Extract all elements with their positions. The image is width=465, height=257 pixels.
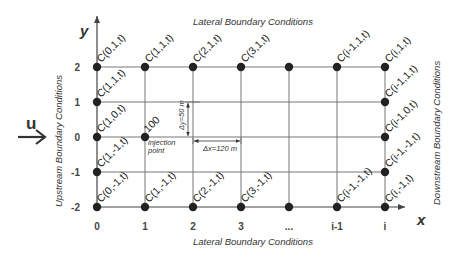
- node-label: C(i-1,1,t): [334, 27, 371, 64]
- node-labels: C(0,1,t)C(1,1,t)C(2,1,t)C(3,1,t)C(i-1,1,…: [94, 27, 422, 204]
- injection-label-line2: point: [147, 146, 165, 155]
- y-tick-label: 1: [74, 97, 80, 108]
- x-tick-label: ...: [285, 221, 294, 232]
- x-tick-labels: 0123...i-1i: [94, 221, 386, 232]
- node-label: C(2,1,t): [190, 31, 223, 64]
- x-tick-label: 0: [94, 221, 100, 232]
- left-boundary-label: Upstream Boundary Conditions: [53, 75, 64, 207]
- node-label: C(i,-1,t): [382, 171, 415, 204]
- node-label: C(3,1,t): [238, 31, 271, 64]
- right-boundary-label: Downstream Boundary Conditions: [431, 61, 442, 205]
- y-tick-label: 2: [74, 62, 80, 73]
- y-tick-labels: 210-1-2: [71, 62, 80, 213]
- node-label: C(2,-1,t): [190, 169, 226, 205]
- y-tick-label: -1: [71, 167, 80, 178]
- x-tick-label: i: [384, 221, 387, 232]
- flow-velocity-label: u: [26, 114, 36, 133]
- bottom-boundary-label: Lateral Boundary Conditions: [193, 236, 313, 247]
- node-label: C(1,0,t): [94, 101, 127, 134]
- dy-label: Δy=50 m: [177, 100, 186, 131]
- dx-label: Δx=120 m: [202, 144, 237, 153]
- node-label: C(0,1,t): [94, 31, 127, 64]
- node-label: C(i-1,-1,t): [334, 165, 374, 205]
- grid-lines: [97, 67, 385, 207]
- grid-diagram: y x 0123...i-1i 210-1-2 C(0,1,t)C(1,1,t)…: [0, 0, 465, 257]
- x-tick-label: 3: [238, 221, 244, 232]
- injection-value: 100: [141, 113, 162, 134]
- x-axis-label: x: [416, 211, 426, 228]
- y-tick-label: -2: [71, 202, 80, 213]
- node-label: C(3,-1,t): [238, 169, 274, 205]
- x-tick-label: i-1: [331, 221, 343, 232]
- node-label: C(i,1,t): [382, 34, 413, 65]
- node-label: C(1,-1,t): [142, 169, 178, 205]
- x-tick-label: 1: [142, 221, 148, 232]
- node-label: C(1,1,t): [94, 66, 127, 99]
- node-label: C(1,1,t): [142, 31, 175, 64]
- x-tick-label: 2: [190, 221, 196, 232]
- top-boundary-label: Lateral Boundary Conditions: [193, 16, 313, 27]
- y-axis-label: y: [79, 22, 89, 39]
- y-tick-label: 0: [74, 132, 80, 143]
